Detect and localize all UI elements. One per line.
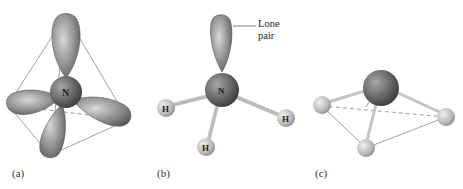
hydrogen-label: H: [162, 104, 169, 114]
orbital-lobe-right: [72, 97, 131, 126]
hydrogen-label: H: [282, 114, 289, 124]
nitrogen-label: N: [62, 87, 70, 98]
orbital-lobe-top: [52, 14, 80, 79]
panel-label-a: (a): [12, 167, 24, 179]
lone-pair-line2: pair: [258, 30, 280, 42]
hydrogen-atom-right: [437, 108, 455, 126]
lone-pair-lobe: [210, 15, 231, 72]
panel-label-c: (c): [315, 167, 327, 179]
lone-pair-line1: Lone: [258, 18, 280, 30]
panel-c: [313, 70, 455, 157]
nitrogen-atom: [363, 70, 399, 106]
lone-pair-annotation: Lone pair: [258, 18, 280, 42]
hydrogen-atom-bottom: [357, 139, 375, 157]
hydrogen-label: H: [202, 143, 209, 153]
panel-label-b: (b): [157, 167, 170, 179]
panel-a: N: [7, 14, 131, 158]
molecule-diagram: N N H H H: [0, 0, 463, 189]
hydrogen-atom-left: [313, 96, 331, 114]
nitrogen-label: N: [218, 86, 225, 96]
